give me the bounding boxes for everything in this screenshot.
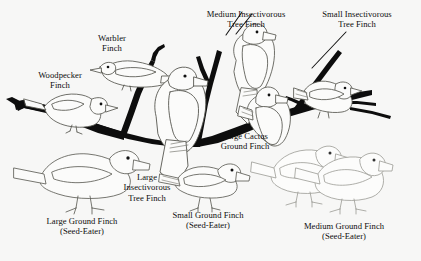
finch-diagram-figure: Woodpecker Finch Warbler Finch Medium In… — [0, 0, 421, 261]
branch-warbler-tip — [151, 44, 165, 62]
large-ground-tail — [14, 168, 46, 184]
label-small-insectivorous-tree-finch-line1: Small Insectivorous — [322, 9, 391, 19]
large-insect-eye — [183, 74, 186, 77]
label-medium-ground-finch-line2: (Seed-Eater) — [284, 231, 404, 241]
label-large-ground-finch: Large Ground Finch (Seed-Eater) — [26, 216, 138, 237]
medium-ground-back-tail — [251, 162, 276, 178]
label-large-insectivorous-tree-finch-line1: Large — [137, 172, 157, 182]
label-large-insectivorous-tree-finch-line2: Insectivorous — [110, 182, 184, 192]
small-ground-eye — [231, 169, 234, 172]
label-small-ground-finch: Small Ground Finch (Seed-Eater) — [152, 210, 264, 231]
small-insect-eye — [344, 87, 347, 90]
large-ground-beak — [133, 160, 150, 170]
label-large-cactus-ground-finch-line1: Large Cactus — [222, 131, 268, 141]
label-woodpecker-finch: Woodpecker Finch — [14, 70, 106, 91]
woodpecker-head — [90, 98, 108, 115]
small-insect-feet — [318, 112, 329, 118]
branch-twig-right-lower — [350, 107, 391, 119]
label-warbler-finch-line2: Finch — [84, 43, 140, 53]
label-large-ground-finch-line2: (Seed-Eater) — [26, 226, 138, 236]
label-large-ground-finch-line1: Large Ground Finch — [47, 216, 118, 226]
medium-ground-front-eye — [373, 159, 376, 162]
label-medium-insectivorous-tree-finch: Medium Insectivorous Tree Finch — [186, 9, 306, 30]
label-medium-insectivorous-tree-finch-line1: Medium Insectivorous — [207, 9, 286, 19]
medium-ground-back-eye — [329, 152, 332, 155]
label-small-insectivorous-tree-finch-line2: Tree Finch — [304, 19, 410, 29]
warbler-eye — [107, 66, 110, 69]
medium-ground-front-legs — [330, 199, 366, 214]
bird-small-insectivorous-tree-finch — [294, 81, 362, 118]
label-small-ground-finch-line2: (Seed-Eater) — [152, 220, 264, 230]
label-large-cactus-ground-finch: Large Cactus Ground Finch — [206, 131, 284, 152]
medium-insect-beak — [263, 32, 276, 40]
label-warbler-finch: Warbler Finch — [84, 33, 140, 54]
label-warbler-finch-line1: Warbler — [98, 33, 126, 43]
label-woodpecker-finch-line2: Finch — [14, 80, 106, 90]
label-small-ground-finch-line1: Small Ground Finch — [172, 210, 243, 220]
medium-ground-back-legs — [286, 192, 322, 207]
large-insect-head — [168, 67, 197, 90]
woodpecker-beak — [106, 105, 118, 112]
medium-ground-front-beak — [379, 161, 393, 171]
label-medium-ground-finch: Medium Ground Finch (Seed-Eater) — [284, 221, 404, 242]
medium-insect-eye — [256, 31, 259, 34]
label-medium-insectivorous-tree-finch-line2: Tree Finch — [186, 19, 306, 29]
label-medium-ground-finch-line1: Medium Ground Finch — [304, 221, 384, 231]
label-small-insectivorous-tree-finch: Small Insectivorous Tree Finch — [304, 9, 410, 30]
small-ground-beak — [236, 172, 250, 181]
label-large-insectivorous-tree-finch: Large Insectivorous Tree Finch — [110, 172, 184, 203]
label-woodpecker-finch-line1: Woodpecker — [38, 70, 82, 80]
branch-left-stub — [6, 97, 24, 108]
large-ground-eye — [126, 156, 129, 159]
label-large-insectivorous-tree-finch-line3: Tree Finch — [110, 193, 184, 203]
cactus-eye — [268, 94, 271, 97]
label-large-cactus-ground-finch-line2: Ground Finch — [206, 141, 284, 151]
woodpecker-eye — [100, 103, 103, 106]
